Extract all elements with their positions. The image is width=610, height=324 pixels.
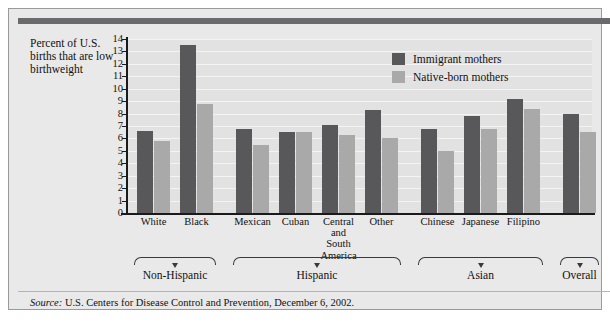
bar-native-2 [253, 145, 269, 213]
bar-immigrant-4 [322, 125, 338, 213]
y-axis-tick-mark [122, 201, 126, 202]
y-axis-tick-mark [122, 114, 126, 115]
y-axis-tick-mark [122, 151, 126, 152]
bar-immigrant-7 [464, 116, 480, 213]
chart-panel: Percent of U.S. births that are low birt… [8, 8, 602, 310]
y-axis-tick-label: 12 [99, 59, 123, 69]
x-axis-category-label: Other [356, 216, 408, 227]
y-axis-tick-label: 8 [99, 109, 123, 119]
footer-divider [18, 291, 610, 292]
bar-immigrant-6 [421, 129, 437, 214]
y-axis-tick-label: 13 [99, 46, 123, 56]
legend-item-immigrant: Immigrant mothers [392, 53, 509, 65]
y-axis-tick-label: 10 [99, 84, 123, 94]
group-label: Hispanic [267, 269, 367, 281]
y-axis-tick-label: 0 [99, 208, 123, 218]
y-axis-tick-label: 11 [99, 71, 123, 81]
y-axis-tick-mark [122, 76, 126, 77]
chart-legend: Immigrant mothers Native-born mothers [392, 53, 509, 89]
legend-label-immigrant: Immigrant mothers [413, 53, 501, 65]
bar-immigrant-1 [180, 45, 196, 213]
y-axis-tick-mark [122, 89, 126, 90]
y-axis-tick-label: 7 [99, 121, 123, 131]
legend-swatch-immigrant [392, 53, 405, 65]
y-axis-tick-labels: 01234567891011121314 [97, 9, 123, 324]
y-axis-tick-mark [122, 213, 126, 214]
y-axis-tick-label: 4 [99, 158, 123, 168]
y-axis-tick-label: 14 [99, 34, 123, 44]
legend-item-native: Native-born mothers [392, 71, 509, 83]
bar-native-8 [524, 109, 540, 213]
y-axis-tick-mark [122, 188, 126, 189]
y-axis-tick-label: 2 [99, 183, 123, 193]
y-axis-tick-mark [122, 163, 126, 164]
bar-native-0 [154, 141, 170, 213]
x-axis-category-label: Filipino [498, 216, 550, 227]
bar-immigrant-8 [507, 99, 523, 213]
bar-native-4 [339, 135, 355, 213]
bar-native-5 [382, 138, 398, 213]
y-axis-tick-label: 5 [99, 146, 123, 156]
y-axis-tick-mark [122, 176, 126, 177]
gridline [127, 51, 592, 52]
group-brace [560, 257, 599, 266]
group-label: Asian [431, 269, 531, 281]
y-axis-tick-mark [122, 64, 126, 65]
group-brace [418, 257, 543, 266]
y-axis-line [126, 37, 128, 214]
x-axis-line [121, 213, 595, 215]
source-text: U.S. Centers for Disease Control and Pre… [65, 297, 354, 308]
group-brace [134, 257, 216, 266]
y-axis-tick-mark [122, 101, 126, 102]
bar-immigrant-3 [279, 132, 295, 213]
gridline [127, 89, 592, 90]
gridline [127, 39, 592, 40]
y-axis-tick-mark [122, 51, 126, 52]
y-axis-tick-label: 6 [99, 133, 123, 143]
group-label: Overall [530, 269, 610, 281]
bar-native-3 [296, 132, 312, 213]
gridline [127, 76, 592, 77]
y-axis-tick-label: 3 [99, 171, 123, 181]
bar-native-7 [481, 129, 497, 214]
bar-immigrant-0 [137, 131, 153, 213]
group-brace [233, 257, 401, 266]
source-note: Source: U.S. Centers for Disease Control… [30, 297, 354, 308]
bar-native-1 [197, 104, 213, 213]
bar-native-9 [580, 132, 596, 213]
bar-immigrant-9 [563, 114, 579, 213]
source-label: Source: [30, 297, 62, 308]
bar-immigrant-5 [365, 110, 381, 213]
y-axis-tick-mark [122, 126, 126, 127]
legend-swatch-native [392, 71, 405, 83]
legend-label-native: Native-born mothers [413, 71, 509, 83]
bar-immigrant-2 [236, 129, 252, 214]
group-label: Non-Hispanic [125, 269, 225, 281]
plot-area [127, 39, 592, 213]
y-axis-tick-label: 9 [99, 96, 123, 106]
y-axis-tick-label: 1 [99, 196, 123, 206]
y-axis-tick-mark [122, 39, 126, 40]
y-axis-tick-mark [122, 138, 126, 139]
x-axis-category-label: Black [171, 216, 223, 227]
gridline [127, 64, 592, 65]
bar-native-6 [438, 151, 454, 213]
